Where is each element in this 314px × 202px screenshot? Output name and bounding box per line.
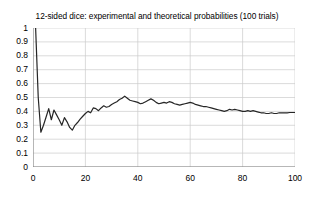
x-tick-label: 40 <box>123 174 153 183</box>
x-tick-label: 80 <box>228 174 258 183</box>
y-tick-label: 0.5 <box>2 93 28 102</box>
x-tick-label: 60 <box>175 174 205 183</box>
plot-area <box>33 28 295 167</box>
y-tick-label: 0.4 <box>2 107 28 116</box>
y-tick-label: 1 <box>2 24 28 33</box>
chart-container: 12-sided dice: experimental and theoreti… <box>0 0 314 202</box>
x-tick-label: 20 <box>70 174 100 183</box>
y-tick-label: 0.7 <box>2 65 28 74</box>
chart-title: 12-sided dice: experimental and theoreti… <box>0 11 314 21</box>
y-tick-label: 0 <box>2 163 28 172</box>
chart-svg <box>33 28 295 167</box>
experimental-probability-line <box>36 28 295 132</box>
y-tick-label: 0.2 <box>2 135 28 144</box>
x-tick-label: 0 <box>18 174 48 183</box>
y-tick-label: 0.9 <box>2 37 28 46</box>
y-tick-label: 0.1 <box>2 149 28 158</box>
horizontal-gridlines <box>33 28 295 167</box>
y-tick-label: 0.8 <box>2 51 28 60</box>
y-tick-label: 0.6 <box>2 79 28 88</box>
x-tick-label: 100 <box>280 174 310 183</box>
y-tick-label: 0.3 <box>2 121 28 130</box>
